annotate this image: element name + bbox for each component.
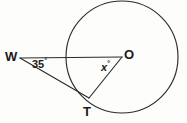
angle-label-at-o: x° xyxy=(101,60,110,73)
vertex-label-t: T xyxy=(83,105,91,118)
angle-w-value: 35 xyxy=(32,58,44,70)
angle-w-degree-symbol: ° xyxy=(44,57,47,64)
segment-w-to-t xyxy=(20,58,89,98)
geometry-figure: W O T 35° x° xyxy=(0,0,187,123)
vertex-label-o: O xyxy=(124,48,134,61)
angle-x-degree-symbol: ° xyxy=(107,60,110,67)
geometry-canvas xyxy=(0,0,187,123)
angle-label-at-w: 35° xyxy=(32,57,47,70)
vertex-label-w: W xyxy=(5,50,17,63)
